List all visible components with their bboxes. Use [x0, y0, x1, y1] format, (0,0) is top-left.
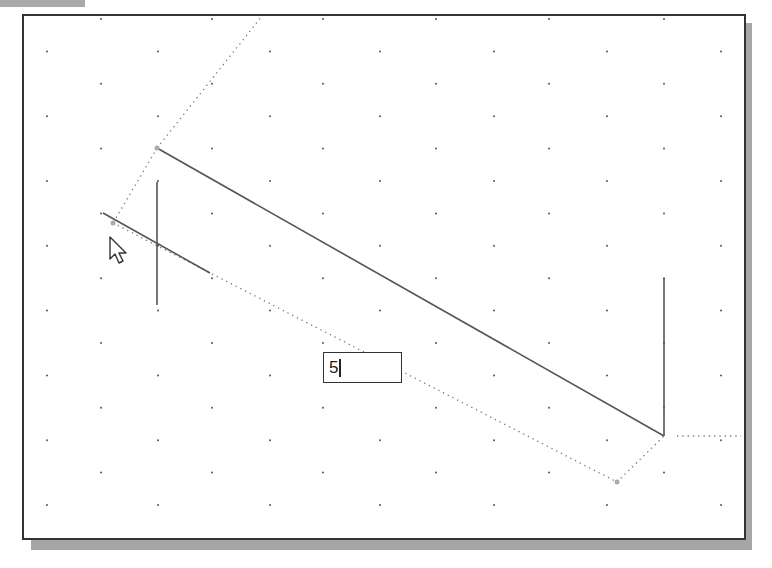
- grid-dot: [720, 374, 722, 376]
- grid-dot: [157, 310, 159, 312]
- dimension-value: 5: [329, 358, 338, 378]
- grid-dot: [379, 245, 381, 247]
- grid-dot: [548, 342, 550, 344]
- sketch-endpoint[interactable]: [111, 221, 116, 226]
- grid-dot: [606, 50, 608, 52]
- grid-dot: [720, 50, 722, 52]
- left-extension-line: [113, 148, 157, 223]
- grid-dot: [269, 180, 271, 182]
- sketch-lines[interactable]: [103, 148, 664, 436]
- grid-dot: [322, 407, 324, 409]
- grid-dot: [157, 374, 159, 376]
- grid-dot: [211, 407, 213, 409]
- grid-dot: [435, 472, 437, 474]
- grid-dot: [493, 115, 495, 117]
- grid-dot: [379, 180, 381, 182]
- grid-dot: [269, 439, 271, 441]
- grid-dot: [322, 277, 324, 279]
- grid-dot: [606, 374, 608, 376]
- grid-dot: [211, 212, 213, 214]
- grid-dot: [435, 83, 437, 85]
- grid-dot: [269, 504, 271, 506]
- grid-dot: [46, 374, 48, 376]
- grid-dot: [663, 83, 665, 85]
- grid-dot: [379, 50, 381, 52]
- grid-dot: [269, 245, 271, 247]
- grid-dot: [379, 504, 381, 506]
- grid-dot: [46, 245, 48, 247]
- grid-dot: [720, 504, 722, 506]
- grid-dot: [493, 245, 495, 247]
- grid-dot: [435, 18, 437, 20]
- grid-dot: [322, 212, 324, 214]
- grid-dot: [157, 50, 159, 52]
- grid-dot: [606, 245, 608, 247]
- main-sloped-line[interactable]: [157, 148, 664, 436]
- grid-dot: [100, 212, 102, 214]
- grid-dot: [46, 50, 48, 52]
- right-extension-line: [617, 436, 664, 482]
- grid-dot: [269, 50, 271, 52]
- grid-dot: [211, 277, 213, 279]
- grid-dot: [720, 439, 722, 441]
- grid-dot: [100, 407, 102, 409]
- grid-dot: [548, 18, 550, 20]
- grid-dot: [379, 115, 381, 117]
- dimension-value-input[interactable]: 5: [323, 352, 402, 383]
- grid-dot: [46, 504, 48, 506]
- grid-dot: [493, 439, 495, 441]
- grid-dot: [606, 439, 608, 441]
- grid-dot: [435, 342, 437, 344]
- grid-dot: [435, 148, 437, 150]
- grid-dot: [548, 472, 550, 474]
- grid-dot: [211, 472, 213, 474]
- grid-dot: [548, 83, 550, 85]
- grid-dot: [606, 115, 608, 117]
- grid-dot: [720, 180, 722, 182]
- grid-dot: [493, 50, 495, 52]
- endpoints[interactable]: [111, 146, 620, 485]
- grid-dot: [435, 407, 437, 409]
- grid-dot: [269, 310, 271, 312]
- grid-dot: [211, 18, 213, 20]
- grid-dot: [379, 439, 381, 441]
- sketch-endpoint[interactable]: [615, 480, 620, 485]
- grid-dot: [322, 83, 324, 85]
- grid-dot: [157, 180, 159, 182]
- grid-dots: [46, 18, 722, 506]
- grid-dot: [100, 148, 102, 150]
- grid-dot: [46, 115, 48, 117]
- upper-construction-line: [157, 16, 262, 148]
- grid-dot: [100, 342, 102, 344]
- sketch-geometry[interactable]: [0, 0, 772, 568]
- grid-dot: [548, 277, 550, 279]
- grid-dot: [606, 180, 608, 182]
- grid-dot: [46, 180, 48, 182]
- grid-dot: [548, 407, 550, 409]
- sketch-endpoint[interactable]: [155, 146, 160, 151]
- grid-dot: [720, 245, 722, 247]
- grid-dot: [157, 439, 159, 441]
- grid-dot: [322, 18, 324, 20]
- grid-dot: [663, 148, 665, 150]
- arrow-pointer-icon: [110, 237, 126, 263]
- grid-dot: [663, 212, 665, 214]
- grid-dot: [211, 148, 213, 150]
- grid-dot: [46, 439, 48, 441]
- grid-dot: [322, 148, 324, 150]
- grid-dot: [100, 18, 102, 20]
- grid-dot: [493, 310, 495, 312]
- grid-dot: [322, 342, 324, 344]
- grid-dot: [606, 310, 608, 312]
- grid-dot: [211, 342, 213, 344]
- grid-dot: [720, 115, 722, 117]
- grid-dot: [100, 83, 102, 85]
- grid-dot: [663, 18, 665, 20]
- grid-dot: [493, 504, 495, 506]
- grid-dot: [269, 374, 271, 376]
- grid-dot: [663, 472, 665, 474]
- grid-dot: [322, 472, 324, 474]
- grid-dot: [493, 374, 495, 376]
- grid-dot: [100, 472, 102, 474]
- grid-dot: [435, 212, 437, 214]
